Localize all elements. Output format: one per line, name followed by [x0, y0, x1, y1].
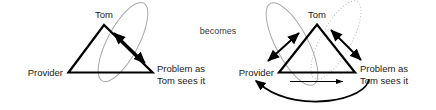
- provider-tom-double-arrow: [268, 33, 299, 61]
- right-tom-problem-double-arrow: [331, 30, 361, 60]
- left-vertex-label-tom: Tom: [95, 9, 113, 20]
- tom-problem-double-arrow: [114, 33, 145, 63]
- right-vertex-label-problem-line1: Problem as: [360, 63, 408, 74]
- initial-triangle-shape: [69, 25, 153, 73]
- becomes-label: becomes: [200, 26, 237, 36]
- left-diagram: Tom Provider Problem as Tom sees it: [28, 0, 206, 88]
- left-vertex-label-provider: Provider: [28, 67, 63, 78]
- problem-provider-curve-arrow: [256, 79, 369, 102]
- right-diagram: Tom Provider Problem as Tom sees it: [239, 0, 409, 102]
- right-vertex-label-tom: Tom: [308, 9, 326, 20]
- right-vertex-label-provider: Provider: [239, 67, 274, 78]
- left-vertex-label-problem-line2: Tom sees it: [157, 75, 205, 86]
- figure-canvas: Tom Provider Problem as Tom sees it beco…: [0, 0, 436, 110]
- left-vertex-label-problem-line1: Problem as: [157, 63, 205, 74]
- right-vertex-label-problem-line2: Tom sees it: [360, 75, 408, 86]
- diagram-svg: Tom Provider Problem as Tom sees it beco…: [0, 0, 436, 110]
